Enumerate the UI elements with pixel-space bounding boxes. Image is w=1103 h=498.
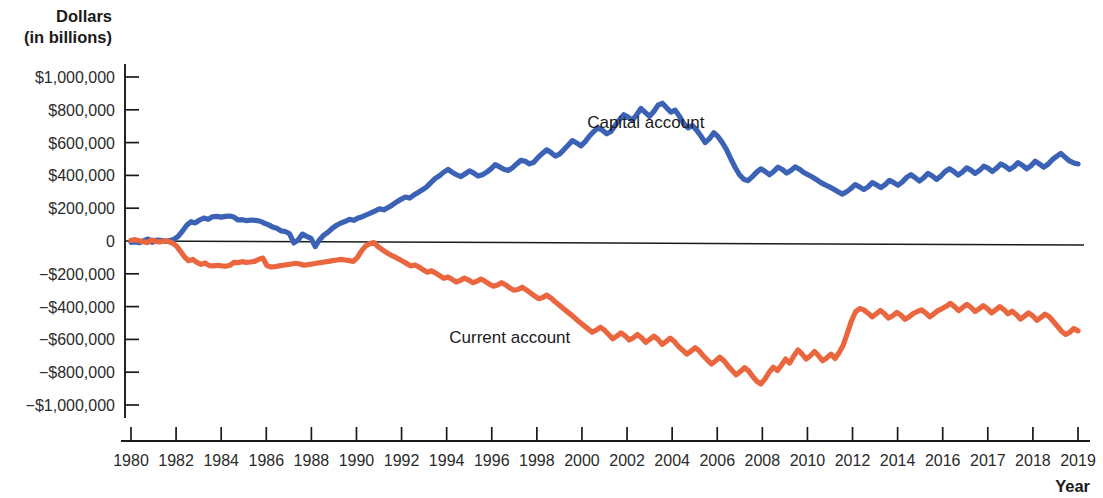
y-axis-tick-label: −$400,000	[39, 299, 115, 316]
x-axis-tick-label: 2016	[925, 452, 961, 469]
series-labels-group: Capital accountCurrent account	[449, 113, 704, 347]
x-axis-tick-label: 2019	[1060, 452, 1096, 469]
y-axis-tick-label: $1,000,000	[35, 69, 115, 86]
x-axis-tick-label: 2014	[880, 452, 916, 469]
y-axis-tick-label: −$1,000,000	[26, 397, 116, 414]
series-line-current-account	[131, 240, 1078, 384]
x-axis-tick-label: 1998	[519, 452, 555, 469]
x-axis-title: Year	[1055, 477, 1090, 495]
y-axis-title-line2: (in billions)	[24, 28, 112, 46]
y-axis-tick-label: $800,000	[48, 102, 115, 119]
x-axis-tick-label: 2004	[654, 452, 690, 469]
x-axis-tick-label: 1988	[294, 452, 330, 469]
x-axis-tick-label: 2018	[1015, 452, 1051, 469]
x-axis: 1980198219841986198819901992199419961998…	[113, 427, 1096, 469]
x-axis-tick-label: 1990	[339, 452, 375, 469]
x-axis-tick-label: 2012	[835, 452, 871, 469]
x-axis-tick-label: 1982	[158, 452, 194, 469]
chart-container: $1,000,000$800,000$600,000$400,000$200,0…	[0, 0, 1103, 498]
x-axis-tick-label: 2002	[609, 452, 645, 469]
x-axis-tick-label: 2017	[970, 452, 1006, 469]
series-label-capital-account: Capital account	[587, 113, 704, 132]
x-axis-tick-label: 1994	[429, 452, 465, 469]
y-axis: $1,000,000$800,000$600,000$400,000$200,0…	[26, 64, 1084, 418]
y-axis-tick-label: 0	[106, 233, 115, 250]
x-axis-tick-label: 1992	[384, 452, 420, 469]
y-axis-tick-label: $400,000	[48, 167, 115, 184]
x-axis-tick-label: 1996	[474, 452, 510, 469]
x-axis-tick-label: 2006	[699, 452, 735, 469]
x-axis-tick-label: 1980	[113, 452, 149, 469]
y-axis-tick-label: −$600,000	[39, 331, 115, 348]
y-axis-tick-label: $200,000	[48, 200, 115, 217]
x-axis-tick-label: 2008	[745, 452, 781, 469]
zero-baseline	[125, 241, 1084, 245]
y-axis-tick-label: $600,000	[48, 135, 115, 152]
x-axis-tick-label: 2010	[790, 452, 826, 469]
x-axis-tick-label: 1986	[248, 452, 284, 469]
x-axis-tick-label: 2000	[564, 452, 600, 469]
series-label-current-account: Current account	[449, 328, 570, 347]
y-axis-tick-label: −$800,000	[39, 364, 115, 381]
y-axis-title-line1: Dollars	[56, 7, 112, 25]
y-axis-tick-label: −$200,000	[39, 266, 115, 283]
balance-of-payments-chart: $1,000,000$800,000$600,000$400,000$200,0…	[0, 0, 1103, 498]
x-axis-tick-label: 1984	[203, 452, 239, 469]
